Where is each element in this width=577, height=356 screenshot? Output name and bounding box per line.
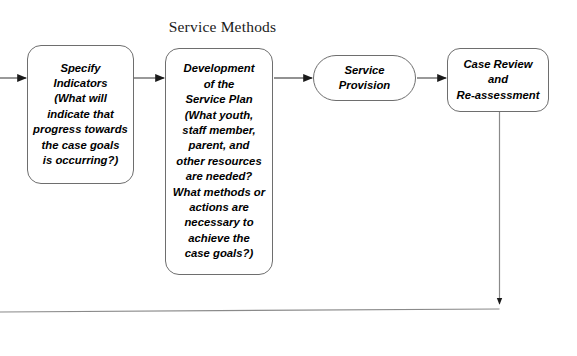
node-service-provision-label: Service Provision bbox=[317, 63, 412, 94]
node-case-review-label: Case Review and Re-assessment bbox=[451, 57, 545, 103]
connector-feedback-horizontal bbox=[0, 309, 500, 312]
node-specify-indicators-label: Specify Indicators (What will indicate t… bbox=[31, 61, 130, 169]
node-specify-indicators[interactable]: Specify Indicators (What will indicate t… bbox=[27, 45, 134, 184]
node-case-review[interactable]: Case Review and Re-assessment bbox=[447, 48, 549, 112]
node-service-plan[interactable]: Development of the Service Plan (What yo… bbox=[165, 48, 273, 275]
node-service-provision[interactable]: Service Provision bbox=[313, 55, 416, 101]
flowchart-canvas: Service Methods Specify Indicators (What… bbox=[0, 0, 577, 356]
node-service-plan-label: Development of the Service Plan (What yo… bbox=[169, 61, 269, 261]
